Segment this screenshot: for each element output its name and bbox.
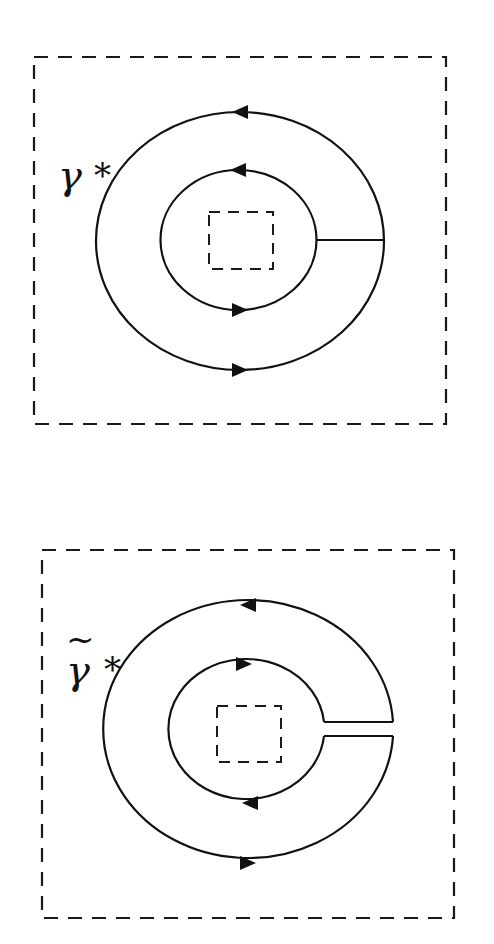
gamma-tilde-star-label: γ xyxy=(66,647,90,693)
gamma-star-label: γ xyxy=(58,152,82,198)
outer-contour xyxy=(103,600,393,858)
figure-top: γ * xyxy=(34,57,446,424)
inner-dashed-region xyxy=(217,706,281,762)
inner-contour xyxy=(161,170,317,310)
star-superscript: * xyxy=(104,649,121,689)
figure-bottom: ~ γ * xyxy=(42,550,454,918)
inner-dashed-region xyxy=(209,212,273,269)
outer-bottom-arrow-right-icon xyxy=(232,363,248,377)
inner-top-arrow-left-icon xyxy=(230,163,246,177)
inner-bottom-arrow-right-icon xyxy=(232,303,248,317)
outer-top-arrow-left-icon xyxy=(232,105,248,119)
diagram-canvas: γ * ~ γ * xyxy=(0,0,494,944)
inner-contour xyxy=(168,659,324,799)
star-superscript: * xyxy=(94,155,111,195)
